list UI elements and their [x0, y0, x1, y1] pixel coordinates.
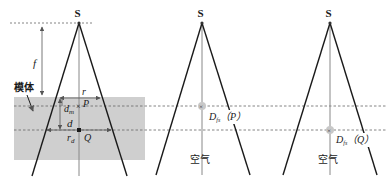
point-p-paren-label: （P）: [220, 111, 246, 122]
panel-air-q: S × Dfs （Q） 空气: [283, 7, 381, 175]
source-point: [200, 21, 203, 24]
point-p-marker: ×: [76, 102, 81, 111]
beam-edge-right: [330, 23, 377, 175]
source-label: S: [75, 7, 81, 19]
measurement-point-q-x: ×: [327, 127, 331, 135]
beam-edge-left: [156, 23, 202, 175]
phantom-label: 模体: [14, 81, 35, 93]
medium-label: 空气: [318, 153, 338, 165]
source-label: S: [326, 7, 332, 19]
source-point: [328, 21, 331, 24]
source-label: S: [198, 7, 204, 19]
diagram-canvas: S f 模体 r dm d rd × P Q S: [0, 0, 386, 187]
panel-air-p: S × Dfs （P） 空气: [156, 7, 260, 175]
r-label: r: [82, 86, 86, 97]
beam-edge-right: [202, 23, 250, 175]
medium-label: 空气: [190, 153, 210, 165]
point-q-label: Q: [84, 132, 92, 143]
point-p-label: P: [82, 98, 89, 109]
d-label: d: [67, 117, 73, 129]
point-q-marker: [77, 128, 81, 132]
source-point: [77, 21, 80, 24]
beam-edge-left: [283, 23, 330, 175]
point-q-paren-label: （Q）: [347, 134, 374, 145]
f-label: f: [33, 57, 38, 69]
measurement-point-p-x: ×: [199, 103, 203, 111]
